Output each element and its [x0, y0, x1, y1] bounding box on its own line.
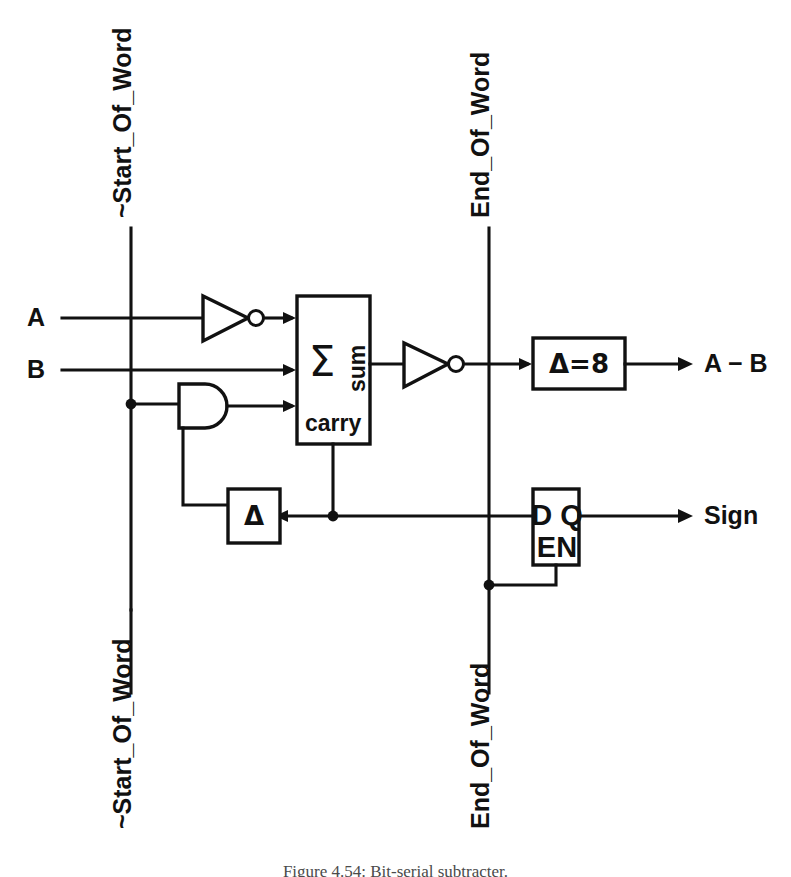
- label-end-of-word-top: End_Of_Word: [466, 52, 494, 218]
- net-carry: [275, 444, 533, 522]
- adder-sigma-symbol: Σ: [309, 337, 336, 386]
- arrowhead-a-minus-b: [678, 357, 693, 371]
- net-a-minus-b: [625, 357, 693, 371]
- schematic-canvas: ~Start_Of_Word ~Start_Of_Word End_Of_Wor…: [0, 0, 791, 877]
- net-enable: [484, 565, 556, 590]
- arrowhead-adder-in-carry: [283, 400, 296, 412]
- flipflop-port-dq: D Q: [531, 499, 583, 531]
- output-label-sign: Sign: [704, 501, 758, 529]
- inverter-sum-icon: [404, 343, 464, 387]
- arrowhead-delay8-in: [519, 358, 532, 370]
- inverter-a-icon: [203, 296, 264, 341]
- label-end-of-word-bottom: End_Of_Word: [466, 663, 494, 829]
- net-inverter-sum-to-delay8: [464, 358, 532, 370]
- delay-one-label: Δ: [244, 501, 264, 531]
- wire-en-to-eow: [489, 565, 556, 585]
- input-label-b: B: [27, 355, 45, 383]
- and-gate-icon: [179, 384, 227, 428]
- net-sign: [579, 509, 693, 523]
- figure-root: ~Start_Of_Word ~Start_Of_Word End_Of_Wor…: [0, 0, 791, 877]
- net-sow-to-and: [126, 399, 178, 410]
- arrowhead-adder-in-a: [283, 312, 296, 324]
- net-delay-to-and: [183, 428, 228, 505]
- arrowhead-adder-in-b: [283, 364, 296, 376]
- adder-port-carry: carry: [305, 410, 361, 436]
- input-label-a: A: [27, 303, 45, 331]
- delay-eight-label: Δ=8: [549, 349, 609, 379]
- net-inverter-a-to-adder: [264, 312, 296, 324]
- junction-eow-enable: [484, 580, 495, 591]
- flipflop-port-en: EN: [537, 531, 577, 563]
- net-and-to-carry: [227, 400, 296, 412]
- wire-delay-and-feedback: [183, 428, 228, 505]
- adder-port-sum: sum: [344, 345, 370, 392]
- figure-caption: Figure 4.54: Bit-serial subtracter.: [0, 862, 791, 877]
- output-label-a-minus-b: A − B: [704, 349, 768, 377]
- junction-sow-and: [126, 399, 137, 410]
- arrowhead-sign: [678, 509, 693, 523]
- label-start-of-word-bottom: ~Start_Of_Word: [108, 638, 136, 829]
- label-start-of-word-top: ~Start_Of_Word: [108, 27, 136, 218]
- net-input-b: [62, 364, 296, 376]
